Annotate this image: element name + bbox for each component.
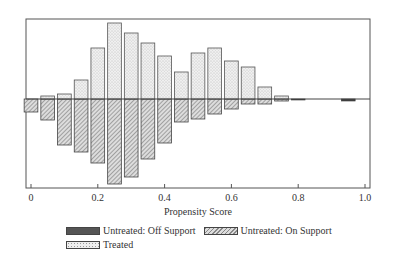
legend: Untreated: Off Support Untreated: On Sup… <box>66 224 386 252</box>
treated-bar <box>174 72 188 99</box>
untreated-on-support-bar <box>24 99 38 112</box>
legend-label: Treated <box>103 239 133 250</box>
treated-bar <box>58 94 72 99</box>
untreated-on-support-bar <box>191 99 205 119</box>
bars <box>24 23 355 184</box>
treated-bar <box>74 80 88 99</box>
untreated-on-support-bar <box>225 99 239 109</box>
treated-bar <box>124 33 138 99</box>
untreated-on-support-bar <box>91 99 105 163</box>
on-support-swatch <box>204 227 238 235</box>
x-tick-label: 1.0 <box>359 192 372 203</box>
treated-bar <box>158 56 172 99</box>
x-tick-label: 0 <box>29 192 34 203</box>
legend-item-off-support: Untreated: Off Support <box>66 225 196 236</box>
treated-bar <box>91 48 105 99</box>
treated-bar <box>141 43 155 99</box>
untreated-on-support-bar <box>174 99 188 122</box>
x-tick-label: 0.8 <box>292 192 305 203</box>
untreated-on-support-bar <box>258 99 272 104</box>
treated-swatch <box>66 241 100 249</box>
x-axis-ticks: 00.20.40.60.81.0 <box>29 184 372 203</box>
legend-item-treated: Treated <box>66 239 133 250</box>
legend-label: Untreated: Off Support <box>103 225 196 236</box>
treated-bar <box>225 61 239 99</box>
x-axis-title: Propensity Score <box>164 206 233 217</box>
untreated-on-support-bar <box>141 99 155 159</box>
treated-bar <box>258 87 272 99</box>
treated-bar <box>208 48 222 99</box>
untreated-on-support-bar <box>74 99 88 152</box>
untreated-on-support-bar <box>208 99 222 114</box>
x-tick-label: 0.6 <box>225 192 238 203</box>
untreated-on-support-bar <box>124 99 138 177</box>
x-tick-label: 0.4 <box>158 192 171 203</box>
untreated-on-support-bar <box>58 99 72 145</box>
untreated-on-support-bar <box>41 99 55 120</box>
treated-bar <box>191 53 205 99</box>
legend-item-on-support: Untreated: On Support <box>204 225 332 236</box>
off-support-swatch <box>66 227 100 235</box>
legend-label: Untreated: On Support <box>241 225 332 236</box>
treated-bar <box>108 23 122 99</box>
treated-bar <box>241 67 255 99</box>
untreated-on-support-bar <box>108 99 122 184</box>
x-tick-label: 0.2 <box>92 192 105 203</box>
untreated-on-support-bar <box>241 99 255 104</box>
untreated-on-support-bar <box>158 99 172 143</box>
